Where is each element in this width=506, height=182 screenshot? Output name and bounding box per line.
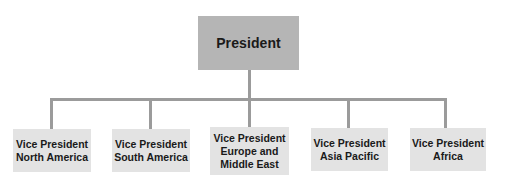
vp-title: Vice President: [114, 138, 188, 151]
connector-asia-pacific: [347, 98, 350, 129]
vp-region: Europe and: [213, 145, 285, 158]
connector-europe-middle-east: [248, 98, 251, 127]
vp-region: Africa: [412, 150, 484, 163]
vp-title: Vice President: [16, 138, 88, 151]
vp-south-america-box: Vice President South America: [112, 129, 190, 172]
org-chart: President Vice President North America V…: [0, 0, 506, 182]
connector-south-america: [149, 98, 152, 129]
vp-region: North America: [16, 151, 88, 164]
connector-root-down: [248, 70, 251, 101]
vp-title: Vice President: [213, 132, 285, 145]
vp-region-line2: Middle East: [213, 158, 285, 171]
president-label: President: [216, 35, 281, 51]
vp-title: Vice President: [313, 137, 385, 150]
vp-title: Vice President: [412, 137, 484, 150]
vp-africa-box: Vice President Africa: [410, 128, 486, 171]
vp-north-america-box: Vice President North America: [13, 129, 91, 172]
connector-north-america: [50, 98, 53, 129]
vp-region: Asia Pacific: [313, 150, 385, 163]
vp-region: South America: [114, 151, 188, 164]
vp-asia-pacific-box: Vice President Asia Pacific: [311, 128, 388, 171]
president-box: President: [198, 16, 299, 70]
connector-africa: [444, 98, 447, 129]
vp-europe-middle-east-box: Vice President Europe and Middle East: [210, 127, 289, 175]
